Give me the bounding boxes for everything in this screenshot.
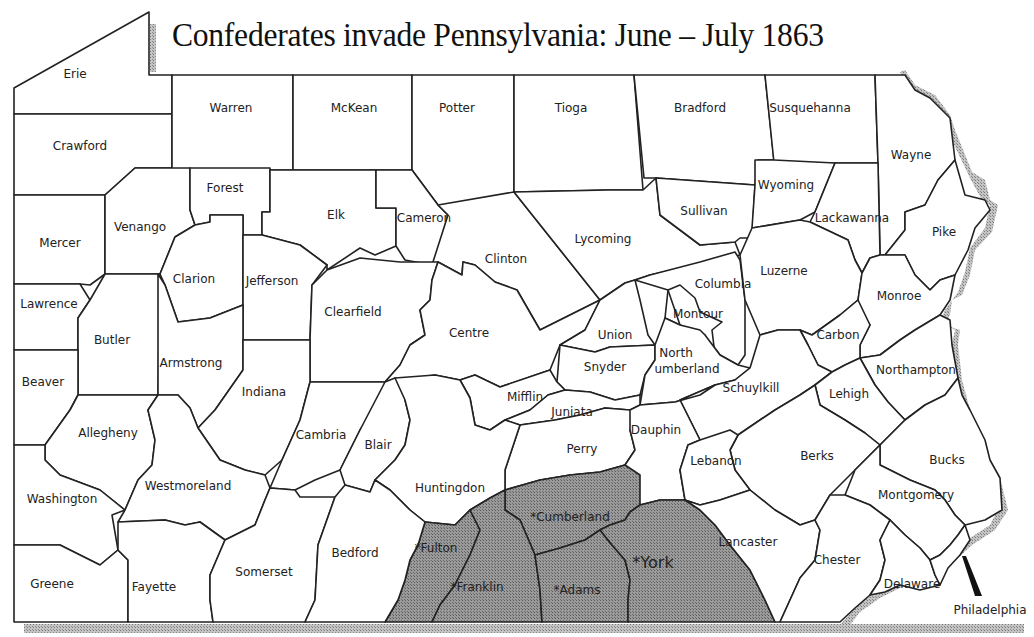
counties: [14, 12, 1002, 622]
label-greene: Greene: [30, 577, 74, 591]
label-perry: Perry: [567, 442, 598, 456]
label-dauphin: Dauphin: [631, 423, 681, 437]
label-fulton: *Fulton: [415, 541, 458, 555]
label-mckean: McKean: [331, 101, 378, 115]
label-pike: Pike: [932, 225, 956, 239]
label-westmoreland: Westmoreland: [145, 479, 232, 493]
county-erie[interactable]: [14, 12, 172, 114]
label-delaware: Delaware: [884, 577, 941, 591]
label-armstrong: Armstrong: [160, 356, 223, 370]
county-bradford[interactable]: [634, 75, 774, 185]
label-cumberland: *Cumberland: [530, 510, 610, 524]
label-washington: Washington: [27, 492, 98, 506]
label-carbon: Carbon: [816, 328, 859, 342]
label-montour: Montour: [673, 307, 723, 321]
label-sullivan: Sullivan: [680, 204, 727, 218]
label-montgomery: Montgomery: [878, 488, 954, 502]
label-chester: Chester: [814, 553, 861, 567]
map-title: Confederates invade Pennsylvania: June –…: [172, 16, 824, 54]
label-clinton: Clinton: [485, 252, 527, 266]
label-snyder: Snyder: [584, 360, 626, 374]
label-lehigh: Lehigh: [829, 387, 869, 401]
label-columbia: Columbia: [695, 277, 752, 291]
label-northumberland-line1: North: [659, 346, 693, 360]
label-philadelphia: Philadelphia: [953, 603, 1026, 617]
label-franklin: *Franklin: [450, 580, 503, 594]
label-crawford: Crawford: [53, 139, 107, 153]
label-elk: Elk: [327, 208, 345, 222]
label-blair: Blair: [364, 438, 391, 452]
label-wyoming: Wyoming: [758, 178, 814, 192]
county-susquehanna[interactable]: [765, 75, 878, 163]
label-fayette: Fayette: [132, 580, 176, 594]
county-mckean[interactable]: [293, 75, 412, 170]
county-potter[interactable]: [412, 75, 514, 205]
label-berks: Berks: [800, 449, 834, 463]
label-lycoming: Lycoming: [575, 232, 632, 246]
label-lackawanna: Lackawanna: [815, 211, 889, 225]
label-beaver: Beaver: [22, 375, 64, 389]
label-lawrence: Lawrence: [20, 297, 78, 311]
label-lancaster: Lancaster: [719, 535, 778, 549]
label-huntingdon: Huntingdon: [415, 481, 485, 495]
label-venango: Venango: [114, 220, 166, 234]
label-luzerne: Luzerne: [760, 264, 807, 278]
label-union: Union: [598, 328, 633, 342]
label-susquehanna: Susquehanna: [769, 101, 851, 115]
label-adams: *Adams: [554, 583, 601, 597]
label-mercer: Mercer: [39, 236, 80, 250]
label-jefferson: Jefferson: [245, 274, 299, 288]
label-clarion: Clarion: [173, 272, 215, 286]
county-warren[interactable]: [172, 75, 293, 170]
philadelphia-pointer-icon: [962, 556, 982, 596]
county-tioga[interactable]: [514, 75, 643, 192]
label-cambria: Cambria: [296, 428, 347, 442]
county-fayette[interactable]: [118, 520, 225, 622]
label-northampton: Northampton: [876, 363, 956, 377]
label-york: *York: [632, 553, 674, 572]
label-bedford: Bedford: [331, 546, 378, 560]
label-cameron: Cameron: [397, 211, 451, 225]
label-monroe: Monroe: [877, 289, 922, 303]
pennsylvania-county-map: Erie Crawford Warren McKean Potter Tioga…: [0, 0, 1034, 637]
label-northumberland-line2: umberland: [654, 362, 719, 376]
label-butler: Butler: [94, 333, 130, 347]
label-lebanon: Lebanon: [690, 454, 741, 468]
label-bucks: Bucks: [929, 453, 965, 467]
label-bradford: Bradford: [674, 101, 726, 115]
label-juniata: Juniata: [550, 405, 593, 419]
label-erie: Erie: [63, 67, 86, 81]
label-forest: Forest: [207, 181, 244, 195]
label-indiana: Indiana: [242, 385, 286, 399]
label-warren: Warren: [210, 101, 253, 115]
label-schuylkill: Schuylkill: [723, 381, 780, 395]
label-mifflin: Mifflin: [507, 390, 543, 404]
label-tioga: Tioga: [554, 101, 588, 115]
label-wayne: Wayne: [891, 148, 932, 162]
label-potter: Potter: [439, 101, 475, 115]
label-clearfield: Clearfield: [324, 305, 381, 319]
label-somerset: Somerset: [235, 565, 293, 579]
label-centre: Centre: [449, 326, 489, 340]
label-allegheny: Allegheny: [78, 426, 138, 440]
